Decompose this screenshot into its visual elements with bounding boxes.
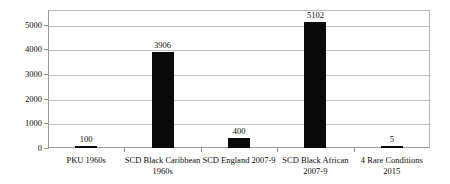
bar-chart: 010002000300040005000 100PKU 1960s3906SC… (0, 0, 450, 184)
x-category-label-line1: SCD Black African (282, 155, 348, 165)
y-tick-mark (44, 49, 48, 50)
y-tick-label: 0 (38, 144, 42, 153)
bar-value-label: 5 (390, 135, 394, 144)
x-tick-mark (124, 148, 125, 152)
y-axis-line (48, 10, 49, 149)
y-tick-mark (44, 74, 48, 75)
gridline (48, 75, 429, 76)
x-category-label-line2: 2007-9 (274, 166, 356, 177)
y-tick-mark (44, 123, 48, 124)
y-tick-label: 1000 (25, 119, 42, 128)
bar-value-label: 400 (233, 127, 246, 136)
x-category-label-line2: 2015 (351, 166, 433, 177)
x-tick-mark (201, 148, 202, 152)
y-tick-label: 4000 (25, 45, 42, 54)
y-tick-mark (44, 99, 48, 100)
y-tick-label: 2000 (25, 94, 42, 103)
gridline (48, 26, 429, 27)
y-tick-label: 5000 (25, 21, 42, 30)
y-tick-label: 3000 (25, 70, 42, 79)
gridline (48, 50, 429, 51)
bar[interactable] (304, 22, 326, 148)
y-axis: 010002000300040005000 (0, 0, 42, 184)
x-category-label-line1: SCD Black Caribbean (125, 155, 201, 165)
x-tick-mark (354, 148, 355, 152)
y-tick-mark (44, 148, 48, 149)
x-category-label: SCD Black Caribbean1960s (121, 155, 203, 176)
bar[interactable] (75, 146, 97, 149)
x-category-label-line2: 1960s (121, 166, 203, 177)
y-tick-mark (44, 25, 48, 26)
bar[interactable] (381, 146, 403, 149)
x-category-label-line1: SCD England 2007-9 (202, 155, 275, 165)
x-category-label: PKU 1960s (45, 155, 127, 166)
x-category-label-line1: PKU 1960s (66, 155, 105, 165)
bar-value-label: 3906 (154, 41, 171, 50)
gridline (48, 100, 429, 101)
x-category-label: SCD Black African2007-9 (274, 155, 356, 176)
bar-value-label: 100 (80, 135, 93, 144)
bar[interactable] (152, 52, 174, 148)
x-category-label: SCD England 2007-9 (198, 155, 280, 166)
bar[interactable] (228, 138, 250, 148)
x-tick-mark (277, 148, 278, 152)
x-category-label: 4 Rare Conditions2015 (351, 155, 433, 176)
x-category-label-line1: 4 Rare Conditions (361, 155, 423, 165)
bar-value-label: 5102 (307, 11, 324, 20)
